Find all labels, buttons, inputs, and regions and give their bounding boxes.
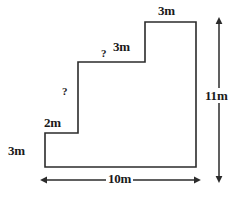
edge-label-lower-step: 2m bbox=[44, 116, 61, 129]
unknown-label-vertical: ? bbox=[62, 86, 68, 97]
unknown-label-horizontal: ? bbox=[101, 48, 107, 59]
dimension-label-width: 10m bbox=[106, 172, 133, 185]
geometry-diagram: 3m 3m ? ? 2m 3m 10m 11m bbox=[0, 0, 242, 197]
edge-label-middle-step: 3m bbox=[113, 40, 130, 53]
edge-label-left: 3m bbox=[8, 144, 25, 157]
edge-label-top: 3m bbox=[158, 4, 175, 17]
dimension-label-height: 11m bbox=[205, 88, 228, 103]
